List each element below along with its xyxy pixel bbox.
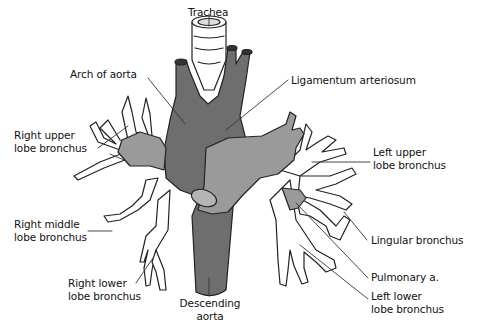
- label-line-1: Right lower: [68, 277, 141, 290]
- label-right-upper-lobe-bronchus: Right upper lobe bronchus: [14, 129, 87, 154]
- label-line-2: aorta: [176, 310, 244, 323]
- label-line-2: lobe bronchus: [371, 303, 444, 316]
- label-descending-aorta: Descending aorta: [176, 297, 244, 322]
- label-lingular-bronchus: Lingular bronchus: [371, 234, 463, 247]
- label-pulmonary-artery: Pulmonary a.: [371, 271, 439, 284]
- label-trachea: Trachea: [188, 6, 228, 19]
- label-right-lower-lobe-bronchus: Right lower lobe bronchus: [68, 277, 141, 302]
- label-left-upper-lobe-bronchus: Left upper lobe bronchus: [373, 146, 446, 171]
- label-line-1: Left upper: [373, 146, 446, 159]
- label-line-2: lobe bronchus: [14, 231, 87, 244]
- label-left-lower-lobe-bronchus: Left lower lobe bronchus: [371, 290, 444, 315]
- label-line-2: lobe bronchus: [14, 142, 87, 155]
- label-arch-of-aorta: Arch of aorta: [70, 68, 137, 81]
- label-line-1: Right upper: [14, 129, 87, 142]
- right-bronchial-tree: [74, 96, 170, 290]
- label-line-1: Left lower: [371, 290, 444, 303]
- label-line-2: lobe bronchus: [68, 290, 141, 303]
- label-right-middle-lobe-bronchus: Right middle lobe bronchus: [14, 218, 87, 243]
- label-ligamentum-arteriosum: Ligamentum arteriosum: [291, 74, 416, 87]
- anatomy-diagram: Trachea Arch of aorta Ligamentum arterio…: [0, 0, 477, 335]
- label-line-1: Descending: [176, 297, 244, 310]
- label-line-1: Right middle: [14, 218, 87, 231]
- trachea-shape: [192, 16, 226, 90]
- label-line-2: lobe bronchus: [373, 159, 446, 172]
